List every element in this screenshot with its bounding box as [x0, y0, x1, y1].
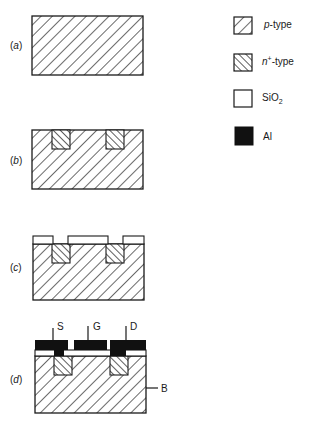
sio2-layer-right: [123, 236, 144, 244]
source-terminal-label: S: [57, 321, 64, 332]
step-a-label: (a): [10, 40, 22, 51]
step-a: (a): [10, 16, 143, 75]
sio2-layer-left: [33, 236, 53, 244]
step-d-label: (d): [10, 374, 22, 385]
legend: p-type n+-type SiO2 Al: [234, 17, 294, 145]
legend-label-al: Al: [263, 131, 272, 142]
al-swatch-icon: [235, 127, 253, 145]
al-gate-contact: [74, 340, 107, 350]
n-plus-source-region: [52, 130, 70, 149]
step-d: (d) S G D B: [10, 321, 168, 413]
drain-terminal-label: D: [130, 321, 137, 332]
n-plus-drain-region: [106, 244, 124, 263]
sio2-swatch-icon: [234, 90, 252, 107]
sio2-layer: [35, 350, 146, 356]
n-plus-drain-region: [106, 130, 124, 149]
p-substrate: [32, 16, 143, 75]
mosfet-fabrication-diagram: (a) (b) (c) (d) S G D B: [0, 0, 310, 424]
gate-terminal-label: G: [93, 321, 101, 332]
legend-label-sio2: SiO2: [262, 92, 283, 105]
sio2-layer-center: [68, 236, 108, 244]
p-type-swatch-icon: [234, 17, 252, 34]
p-substrate: [32, 130, 143, 189]
n-plus-source-region: [54, 356, 72, 375]
p-substrate: [33, 244, 144, 300]
legend-item-sio2: SiO2: [234, 90, 283, 107]
legend-label-n-plus-type: n+-type: [262, 55, 294, 67]
step-c: (c): [10, 236, 144, 300]
legend-label-p-type: p-type: [263, 19, 292, 30]
n-plus-source-region: [52, 244, 70, 263]
n-plus-type-swatch-icon: [234, 54, 252, 71]
legend-item-al: Al: [235, 127, 272, 145]
step-b-label: (b): [10, 155, 22, 166]
p-substrate: [35, 356, 146, 413]
body-terminal-label: B: [161, 383, 168, 394]
step-b: (b): [10, 130, 143, 189]
legend-item-n-plus-type: n+-type: [234, 54, 294, 71]
n-plus-drain-region: [110, 356, 128, 375]
legend-item-p-type: p-type: [234, 17, 292, 34]
step-c-label: (c): [10, 262, 22, 273]
